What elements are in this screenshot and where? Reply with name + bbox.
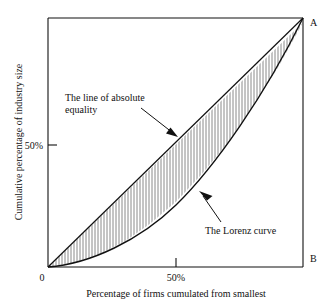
y-tick-label-50: 50% xyxy=(25,140,43,151)
point-a-label: A xyxy=(310,17,318,28)
y-axis-title: Cumulative percentage of industry size xyxy=(13,63,24,220)
lorenz-curve-figure: The line of absolute equality The Lorenz… xyxy=(0,0,330,306)
chart-svg: The line of absolute equality The Lorenz… xyxy=(0,0,330,306)
lorenz-annotation-leader xyxy=(199,191,221,222)
equality-annotation-leader xyxy=(141,108,178,137)
point-b-label: B xyxy=(310,253,317,264)
x-tick-label-50: 50% xyxy=(167,272,185,283)
origin-tick-label: 0 xyxy=(40,272,45,283)
equality-label-line2: equality xyxy=(65,104,97,115)
equality-label-line1: The line of absolute xyxy=(65,92,145,103)
x-axis-title: Percentage of firms cumulated from small… xyxy=(86,288,266,299)
lorenz-curve-label: The Lorenz curve xyxy=(205,225,277,236)
